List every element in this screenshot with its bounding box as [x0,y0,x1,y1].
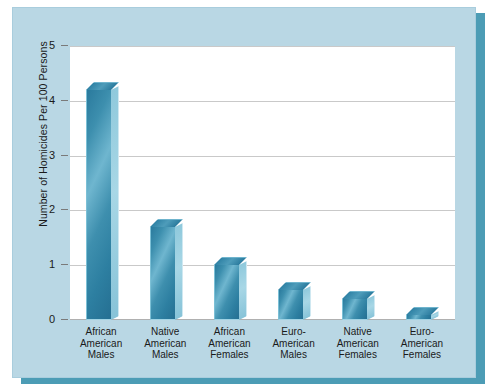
bar-front-face [278,290,303,320]
x-axis-label-line: American [259,338,329,350]
x-axis-label-line: American [387,338,457,350]
y-axis-tick-mark [61,209,68,210]
x-axis-label-line: Females [323,349,393,361]
x-axis-label-line: American [66,338,136,350]
bar-slot [391,46,455,320]
bar-slot [327,46,391,320]
y-axis-tick-label: 3 [21,150,55,161]
x-axis-category-label: NativeAmericanMales [130,326,200,361]
x-axis-label-line: Native [130,326,200,338]
chart-panel: Number of Homicides Per 100 Persons 0123… [12,7,476,378]
x-axis-label-line: Males [130,349,200,361]
bar-side-face [239,261,247,320]
bar[interactable] [150,227,175,320]
y-axis-tick-mark [61,319,68,320]
bar[interactable] [86,90,111,320]
x-axis-category-label: Euro-AmericanMales [259,326,329,361]
bar-slot [134,46,198,320]
y-axis-tick-label: 5 [21,40,55,51]
bar[interactable] [278,290,303,320]
bar-front-face [86,90,111,320]
bar-front-face [214,265,239,320]
chart-figure: Number of Homicides Per 100 Persons 0123… [0,0,486,385]
bar[interactable] [214,265,239,320]
bar-front-face [150,227,175,320]
y-axis-tick-label: 2 [21,204,55,215]
y-axis-tick-label: 1 [21,259,55,270]
x-axis-label-line: Males [66,349,136,361]
y-axis-tick-mark [61,45,68,46]
x-axis-label-line: American [194,338,264,350]
bar-side-face [303,286,311,320]
x-axis-label-line: Females [194,349,264,361]
bar-slot [198,46,262,320]
y-axis-tick-label: 4 [21,95,55,106]
x-axis-category-label: NativeAmericanFemales [323,326,393,361]
y-axis-tick-mark [61,264,68,265]
bar[interactable] [406,315,431,320]
plot-area [70,46,455,320]
x-axis-label-line: Euro- [387,326,457,338]
x-axis-label-line: American [130,338,200,350]
bar-side-face [367,295,375,320]
x-axis-label-line: Females [387,349,457,361]
bar-side-face [111,86,119,320]
x-axis-label-line: Native [323,326,393,338]
x-axis-category-label: AfricanAmericanMales [66,326,136,361]
bar-front-face [406,315,431,320]
x-axis-category-label: Euro-AmericanFemales [387,326,457,361]
x-axis-label-line: Euro- [259,326,329,338]
y-axis-tick-mark [61,100,68,101]
x-axis-label-line: Males [259,349,329,361]
x-axis-label-line: African [66,326,136,338]
bar[interactable] [342,299,367,320]
x-axis-category-label: AfricanAmericanFemales [194,326,264,361]
y-axis-tick-label: 0 [21,314,55,325]
bar-slot [70,46,134,320]
y-axis-tick-mark [61,155,68,156]
bar-side-face [175,223,183,320]
bar-slot [263,46,327,320]
x-axis-label-line: American [323,338,393,350]
x-axis-label-line: African [194,326,264,338]
bar-front-face [342,299,367,320]
